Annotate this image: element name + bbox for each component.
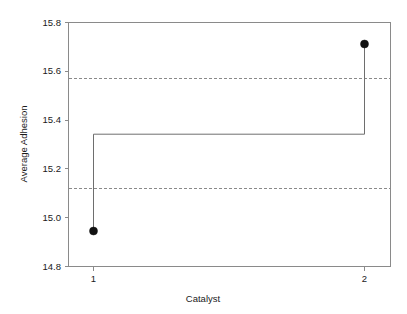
effect-step-line — [94, 44, 365, 231]
data-point-catalyst-2 — [361, 40, 369, 48]
x-tick-label: 2 — [362, 273, 367, 284]
x-axis-tick-labels: 1 2 — [91, 273, 367, 284]
y-tick-label: 15.0 — [43, 212, 62, 223]
plot-frame — [69, 23, 391, 267]
y-tick-label: 15.6 — [43, 65, 62, 76]
y-axis-tick-labels: 15.8 15.6 15.4 15.2 15.0 14.8 — [43, 17, 62, 272]
y-axis-ticks — [65, 23, 69, 267]
data-point-catalyst-1 — [90, 227, 98, 235]
data-markers — [90, 40, 369, 235]
x-axis-title: Catalyst — [186, 293, 221, 304]
y-tick-label: 14.8 — [43, 261, 62, 272]
y-tick-label: 15.4 — [43, 114, 62, 125]
chart-canvas: 15.8 15.6 15.4 15.2 15.0 14.8 1 2 — [0, 0, 407, 314]
main-effects-chart: 15.8 15.6 15.4 15.2 15.0 14.8 1 2 — [0, 0, 407, 314]
reference-lines — [69, 78, 391, 188]
x-tick-label: 1 — [91, 273, 96, 284]
y-axis-title: Average Adhesion — [18, 106, 29, 183]
y-tick-label: 15.8 — [43, 17, 62, 28]
y-tick-label: 15.2 — [43, 163, 62, 174]
x-axis-ticks — [94, 267, 365, 271]
